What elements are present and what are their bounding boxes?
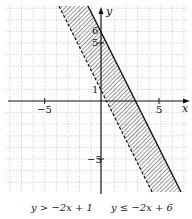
y-tick-label-1: 1 <box>92 84 98 95</box>
graph: y x −5 5 6 5 1 −5 <box>0 0 192 219</box>
inequality-caption-1: y > −2x + 1 <box>31 202 93 213</box>
y-axis-label: y <box>105 5 113 18</box>
boundary-solid-line <box>88 6 181 192</box>
inequality-caption-2: y ≤ −2x + 6 <box>111 202 173 213</box>
x-tick-label-neg5: −5 <box>37 104 52 115</box>
y-tick-label-neg5: −5 <box>87 154 102 165</box>
y-tick-label-5: 5 <box>92 37 98 48</box>
solution-region <box>59 6 181 192</box>
y-tick-label-6: 6 <box>92 25 98 36</box>
x-tick-label-5: 5 <box>156 104 162 115</box>
x-axis-label: x <box>182 102 189 115</box>
